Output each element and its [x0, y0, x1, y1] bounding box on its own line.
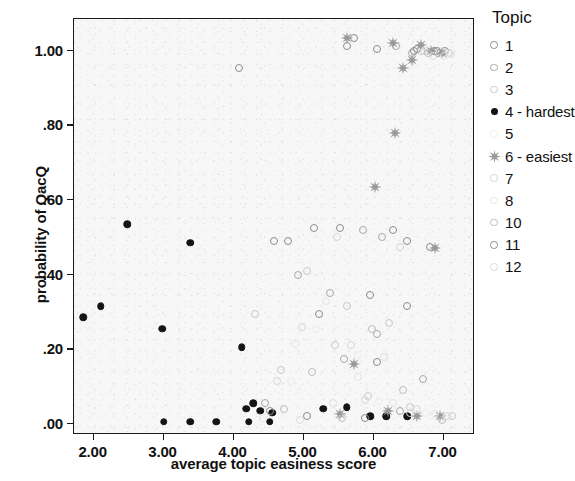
data-point-filled — [160, 418, 168, 426]
data-point-circle — [284, 237, 292, 245]
data-point-filled — [266, 418, 274, 426]
data-point-star — [436, 46, 449, 59]
legend-item-10[interactable]: 10 — [486, 212, 574, 234]
data-point-circle — [410, 47, 418, 55]
legend-item-7[interactable]: 7 — [486, 167, 574, 189]
data-point-circle — [420, 47, 428, 55]
data-point-filled — [366, 413, 374, 421]
data-point-circle — [447, 50, 455, 58]
data-point-filled — [319, 405, 327, 413]
data-point-filled — [242, 405, 250, 413]
data-point-circle — [403, 237, 411, 245]
legend-label: 8 — [505, 192, 513, 209]
data-point-star — [424, 44, 437, 57]
data-point-circle — [408, 49, 416, 57]
data-point-filled — [79, 314, 87, 322]
data-point-circle — [326, 289, 334, 297]
legend-item-2[interactable]: 2 — [486, 56, 574, 78]
data-point-circle — [259, 414, 267, 422]
data-point-circle — [354, 351, 362, 359]
legend-marker-circle — [486, 259, 502, 275]
data-point-star — [406, 54, 419, 67]
data-point-circle — [433, 47, 441, 55]
data-point-circle — [280, 405, 288, 413]
data-point-circle — [261, 399, 269, 407]
data-point-circle — [378, 233, 386, 241]
legend-item-6[interactable]: 6 - easiest — [486, 145, 574, 167]
data-point-star — [347, 358, 360, 371]
y-axis-title: probability of QacQ — [32, 125, 49, 345]
data-point-filled — [268, 409, 276, 417]
data-point-circle — [296, 416, 304, 424]
legend-item-11[interactable]: 11 — [486, 234, 574, 256]
data-point-circle — [380, 353, 388, 361]
data-point-circle — [373, 45, 381, 53]
data-point-filled — [238, 344, 246, 352]
data-point-filled — [249, 400, 257, 408]
data-point-circle — [434, 49, 442, 57]
legend-label: 1 — [505, 37, 513, 54]
legend-entries: 1234 - hardest56 - easiest78101112 — [486, 34, 574, 278]
legend-label: 10 — [505, 214, 521, 231]
y-tick-label: .40 — [7, 265, 63, 282]
data-point-circle — [419, 375, 427, 383]
data-point-filled — [245, 418, 253, 426]
y-tick-label: .60 — [7, 190, 63, 207]
data-point-circle — [315, 310, 323, 318]
data-point-circle — [298, 323, 306, 331]
data-point-filled — [158, 325, 166, 333]
data-point-circle — [291, 340, 299, 348]
data-point-circle — [429, 52, 437, 60]
legend-item-1[interactable]: 1 — [486, 34, 574, 56]
data-point-star — [333, 408, 346, 421]
data-point-circle — [441, 414, 449, 422]
data-point-circle — [373, 330, 381, 338]
legend-marker-circle — [486, 170, 502, 186]
data-point-circle — [329, 399, 337, 407]
data-point-circle — [366, 291, 374, 299]
data-point-circle — [338, 414, 346, 422]
data-point-circle — [385, 319, 393, 327]
legend-marker-circle — [486, 37, 502, 53]
data-point-filled — [212, 418, 220, 426]
data-point-circle — [403, 302, 411, 310]
y-tick-label: .80 — [7, 116, 63, 133]
x-tick-mark — [233, 434, 235, 440]
legend-item-8[interactable]: 8 — [486, 189, 574, 211]
data-point-circle — [359, 226, 367, 234]
legend-item-12[interactable]: 12 — [486, 256, 574, 278]
legend-marker-circle — [486, 81, 502, 97]
data-point-filled — [382, 413, 390, 421]
legend-item-5[interactable]: 5 — [486, 123, 574, 145]
data-point-circle — [417, 47, 425, 55]
data-point-circle — [373, 358, 381, 366]
y-tick-label: 1.00 — [7, 41, 63, 58]
data-point-circle — [396, 407, 404, 415]
x-tick-mark — [443, 434, 445, 440]
data-point-circle — [389, 226, 397, 234]
legend-marker-filled-circle — [486, 104, 502, 120]
legend-item-3[interactable]: 3 — [486, 78, 574, 100]
x-tick-mark — [93, 434, 95, 440]
legend-item-4[interactable]: 4 - hardest — [486, 101, 574, 123]
legend-marker-circle — [486, 59, 502, 75]
legend-label: 2 — [505, 59, 513, 76]
data-point-circle — [277, 366, 285, 374]
data-point-filled — [186, 418, 194, 426]
data-point-star — [388, 126, 401, 139]
data-point-circle — [443, 412, 451, 420]
data-point-star — [429, 242, 442, 255]
data-point-circle — [336, 224, 344, 232]
data-point-filled — [343, 403, 351, 411]
data-point-circle — [438, 416, 446, 424]
data-point-circle — [445, 49, 453, 57]
legend-label: 12 — [505, 258, 521, 275]
data-point-star — [410, 410, 423, 423]
legend-label: 6 - easiest — [505, 148, 572, 165]
data-point-circle — [392, 42, 400, 50]
data-point-circle — [303, 267, 311, 275]
y-tick-label: .00 — [7, 414, 63, 431]
data-point-circle — [430, 47, 438, 55]
x-axis-title: average topic easiness score — [73, 455, 474, 472]
data-point-circle — [350, 34, 358, 42]
